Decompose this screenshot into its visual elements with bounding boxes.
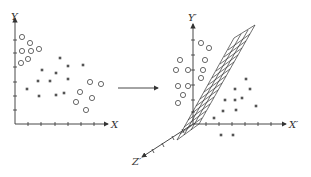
circle-point (180, 92, 185, 97)
right-square-points (213, 78, 258, 137)
square-point (232, 134, 235, 137)
circle-point (206, 45, 211, 50)
circle-point (18, 60, 23, 65)
square-point (67, 65, 70, 68)
circle-point (175, 83, 180, 88)
left-square-points (26, 57, 85, 98)
square-point (59, 57, 62, 60)
circle-point (198, 75, 203, 80)
circle-point (36, 46, 41, 51)
right-x-label: X′ (288, 119, 299, 130)
circle-point (73, 99, 78, 104)
left-plot: Y X (11, 11, 119, 130)
square-point (213, 117, 216, 120)
square-point (38, 95, 41, 98)
right-plot: Y′ X′ Z′ (131, 12, 299, 167)
circle-point (89, 95, 94, 100)
circle-point (98, 81, 103, 86)
right-y-label: Y′ (188, 12, 198, 23)
right-z-label: Z′ (131, 156, 142, 167)
circle-point (198, 40, 203, 45)
square-point (37, 80, 40, 83)
square-point (222, 110, 225, 113)
square-point (255, 105, 258, 108)
square-point (235, 109, 238, 112)
separating-hyperplane (177, 25, 255, 140)
circle-point (27, 40, 32, 45)
circle-point (185, 67, 190, 72)
square-point (55, 94, 58, 97)
circle-point (25, 56, 30, 61)
square-point (82, 64, 85, 67)
square-point (241, 97, 244, 100)
circle-point (202, 57, 207, 62)
square-point (224, 99, 227, 102)
circle-point (200, 67, 205, 72)
circle-point (177, 57, 182, 62)
circle-point (19, 48, 24, 53)
circle-point (19, 34, 24, 39)
circle-point (173, 67, 178, 72)
circle-point (28, 48, 33, 53)
square-point (234, 99, 237, 102)
square-point (67, 78, 70, 81)
diagram-canvas: Y X Y′ (0, 0, 311, 177)
square-point (245, 78, 248, 81)
left-circle-points (18, 34, 103, 112)
square-point (41, 69, 44, 72)
right-z-axis (142, 124, 193, 157)
square-point (26, 88, 29, 91)
square-point (55, 72, 58, 75)
circle-point (77, 89, 82, 94)
left-x-label: X (110, 119, 119, 130)
square-point (220, 134, 223, 137)
square-point (249, 88, 252, 91)
square-point (234, 88, 237, 91)
circle-point (175, 100, 180, 105)
square-point (63, 92, 66, 95)
left-y-label: Y (11, 11, 19, 22)
circle-point (87, 79, 92, 84)
circle-point (83, 107, 88, 112)
square-point (49, 80, 52, 83)
circle-point (185, 83, 190, 88)
